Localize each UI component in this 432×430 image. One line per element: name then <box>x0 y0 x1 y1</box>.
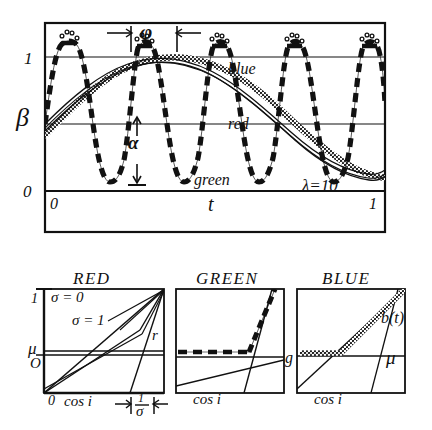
blue-mu-label: μ <box>386 348 396 367</box>
red-xtick-zero: 0 <box>48 394 55 408</box>
amplitude-label: α <box>128 133 139 152</box>
top-ytick-one: 1 <box>24 50 33 67</box>
lambda-label: λ=10 <box>302 177 338 194</box>
red-panel-title: RED <box>73 270 111 287</box>
curve-label-red: red <box>228 116 249 132</box>
top-xtick-one: 1 <box>369 196 377 212</box>
phase-label: φ <box>140 22 152 43</box>
sigma-zero-label: σ = 0 <box>51 290 84 305</box>
blue-panel-title: BLUE <box>322 270 371 287</box>
blue-xaxis-label: cos i <box>314 392 342 407</box>
top-ytick-zero: 0 <box>23 183 32 200</box>
green-xaxis-label: cos i <box>193 392 221 407</box>
curve-blue <box>45 57 385 178</box>
figure-svg <box>0 0 432 430</box>
curve-label-blue: blue <box>228 61 256 77</box>
green-panel-title: GREEN <box>196 270 258 287</box>
blue-curve-label: b(t) <box>381 310 404 326</box>
red-xaxis-label: cos i <box>64 394 92 409</box>
green-curve-label: g <box>285 350 293 366</box>
blue-panel-curves <box>297 289 405 393</box>
red-curve-label: r <box>152 328 158 343</box>
figure-root <box>0 0 432 430</box>
phase-annotation-marks <box>107 26 201 52</box>
sigma-bracket-denominator: σ <box>136 404 143 419</box>
curve-label-green: green <box>194 172 230 188</box>
top-xaxis-label: t <box>208 194 214 214</box>
green-panel-curves <box>176 289 284 393</box>
sigma-one-label: σ = 1 <box>72 313 105 328</box>
red-ytick-origin: O <box>30 356 41 371</box>
red-ytick-one: 1 <box>31 292 38 306</box>
top-yaxis-label: β <box>16 105 29 131</box>
top-xtick-zero: 0 <box>50 196 58 212</box>
